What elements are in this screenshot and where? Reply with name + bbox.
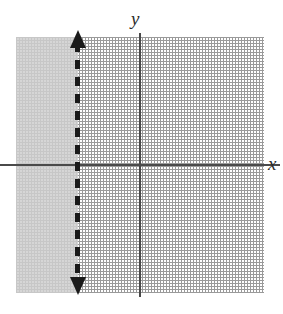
x-axis-label: x [268, 154, 276, 173]
dashed-boundary-line [75, 43, 80, 287]
y-axis-label: y [131, 9, 139, 28]
arrow-down-icon [70, 277, 86, 295]
arrow-up-icon [70, 30, 86, 48]
y-axis [139, 33, 141, 297]
coordinate-plane-figure: y x [0, 0, 283, 314]
plot-area [16, 37, 264, 293]
